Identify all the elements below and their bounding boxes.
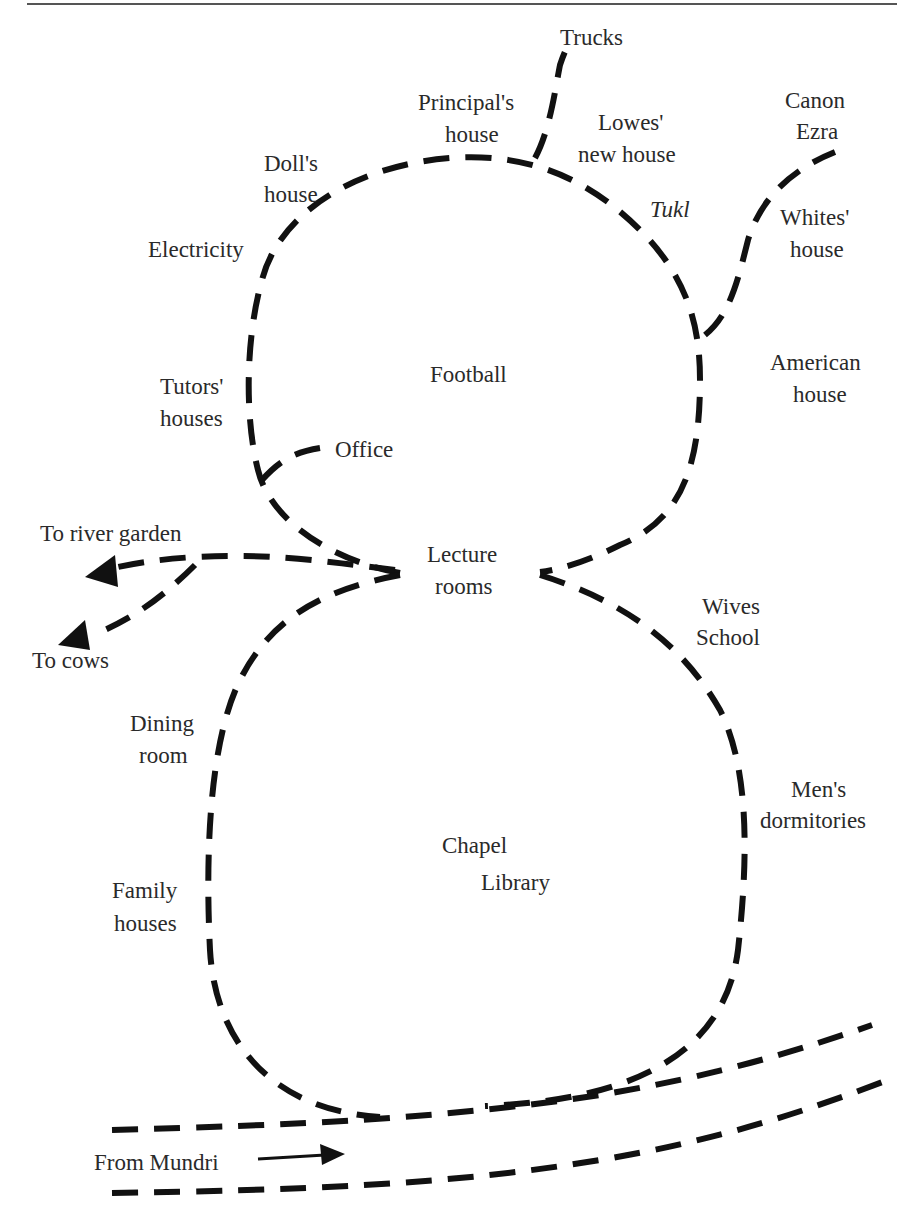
label-chapel: Chapel bbox=[442, 833, 507, 858]
office-road bbox=[262, 448, 320, 480]
label-football: Football bbox=[430, 362, 507, 387]
label-family-2: houses bbox=[114, 911, 177, 936]
label-wives-2: School bbox=[696, 625, 760, 650]
label-river-garden: To river garden bbox=[40, 521, 182, 546]
label-tutors-1: Tutors' bbox=[160, 374, 223, 399]
label-wives-1: Wives bbox=[702, 594, 760, 619]
label-dolls-1: Doll's bbox=[264, 151, 318, 176]
lower-loop-right-path bbox=[485, 575, 745, 1106]
label-whites-1: Whites' bbox=[780, 205, 849, 230]
label-lecture-2: rooms bbox=[435, 574, 493, 599]
label-mens-2: dormitories bbox=[760, 808, 866, 833]
label-american-2: house bbox=[793, 382, 847, 407]
label-american-1: American bbox=[770, 350, 861, 375]
campus-map-diagram: Trucks Principal's house Lowes' new hous… bbox=[0, 0, 922, 1209]
main-road-upper bbox=[112, 1025, 872, 1130]
label-trucks: Trucks bbox=[560, 25, 623, 50]
label-office: Office bbox=[335, 437, 393, 462]
label-lowes-1: Lowes' bbox=[598, 110, 663, 135]
label-whites-2: house bbox=[790, 237, 844, 262]
label-tukl: Tukl bbox=[650, 197, 690, 222]
label-canon-2: Ezra bbox=[796, 119, 838, 144]
label-dolls-2: house bbox=[264, 182, 318, 207]
label-lowes-2: new house bbox=[578, 142, 676, 167]
arrow-cows-icon bbox=[58, 620, 90, 650]
label-dining-2: room bbox=[139, 743, 188, 768]
main-road-lower bbox=[112, 1078, 893, 1193]
label-mens-1: Men's bbox=[791, 777, 846, 802]
trucks-road bbox=[535, 40, 572, 158]
label-mundri: From Mundri bbox=[94, 1150, 219, 1175]
label-dining-1: Dining bbox=[130, 711, 194, 736]
label-electricity: Electricity bbox=[148, 237, 244, 262]
label-principals-house-1: Principal's bbox=[418, 90, 514, 115]
label-cows: To cows bbox=[32, 648, 109, 673]
label-lecture-1: Lecture bbox=[427, 542, 497, 567]
label-library: Library bbox=[481, 870, 550, 895]
label-principals-house-2: house bbox=[445, 122, 499, 147]
arrow-river-garden-icon bbox=[85, 555, 118, 587]
label-canon-1: Canon bbox=[785, 88, 846, 113]
mundri-arrow-line bbox=[258, 1155, 325, 1159]
label-family-1: Family bbox=[112, 878, 178, 903]
label-tutors-2: houses bbox=[160, 406, 223, 431]
arrow-mundri-icon bbox=[320, 1144, 345, 1165]
lower-loop-path bbox=[208, 575, 400, 1117]
